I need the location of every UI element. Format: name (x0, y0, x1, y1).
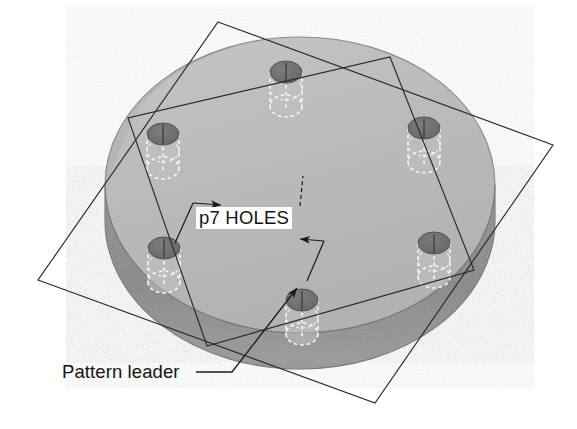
hole-count-label: p7 HOLES (196, 207, 292, 229)
hole-3[interactable] (418, 232, 450, 288)
pattern-leader-label: Pattern leader (62, 362, 180, 381)
hole-2[interactable] (408, 117, 440, 173)
hole-4[interactable] (286, 289, 318, 345)
hole-6[interactable] (147, 123, 179, 179)
cad-illustration: p7 HOLES Pattern leader (0, 0, 577, 429)
hole-1[interactable] (270, 61, 302, 117)
hole-5[interactable] (148, 237, 180, 293)
